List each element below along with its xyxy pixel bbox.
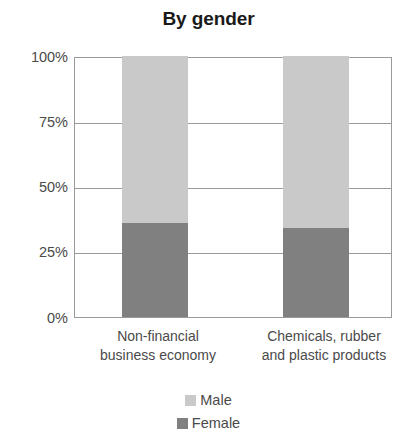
bar-segment-male — [283, 56, 349, 228]
bar-segment-male — [122, 56, 188, 223]
bar-non-financial-business-economy — [122, 56, 188, 317]
chart-legend: Male Female — [0, 389, 417, 435]
x-axis-label-0: Non-financial business economy — [78, 327, 238, 365]
y-axis-tick-100: 100% — [8, 50, 68, 65]
legend-label-female: Female — [192, 416, 240, 431]
x-axis-label-1: Chemicals, rubber and plastic products — [238, 327, 410, 365]
y-axis-tick-0: 0% — [8, 311, 68, 326]
bar-chemicals-rubber-and-plastic-products — [283, 56, 349, 317]
legend-item-female: Female — [177, 412, 240, 435]
legend-label-male: Male — [200, 393, 231, 408]
y-axis-tick-75: 75% — [8, 115, 68, 130]
chart-container: By gender 100% 75% 50% 25% 0% Non-financ… — [0, 0, 417, 447]
x-axis-label-0-line2: business economy — [78, 346, 238, 365]
legend-swatch-female-icon — [177, 418, 188, 429]
x-axis-label-1-line1: Chemicals, rubber — [238, 327, 410, 346]
x-axis-label-1-line2: and plastic products — [238, 346, 410, 365]
chart-title: By gender — [0, 8, 417, 30]
plot-area — [74, 57, 392, 318]
legend-swatch-male-icon — [185, 395, 196, 406]
x-axis-label-0-line1: Non-financial — [78, 327, 238, 346]
bar-segment-female — [122, 223, 188, 317]
legend-item-male: Male — [185, 389, 231, 412]
bar-segment-female — [283, 228, 349, 317]
y-axis-tick-50: 50% — [8, 180, 68, 195]
y-axis-tick-25: 25% — [8, 245, 68, 260]
